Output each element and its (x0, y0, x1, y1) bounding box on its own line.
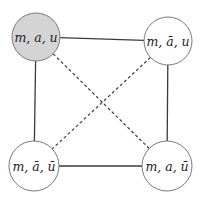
solid-edge-n2-n4 (167, 65, 168, 141)
graph-node-n3: m, ā, ū (9, 141, 59, 191)
graph-node-n1: m, a, u (12, 13, 60, 61)
dashed-edge-n1-n4 (53, 54, 149, 149)
graph-node-n4: m, a, ū (142, 141, 192, 191)
node-label: m, ā, ū (12, 159, 55, 174)
graph-node-n2: m, ā, u (144, 17, 192, 65)
graph-diagram: m, a, um, ā, um, ā, ūm, a, ū (0, 0, 203, 198)
solid-edge-n1-n3 (34, 61, 35, 141)
node-label: m, ā, u (146, 34, 189, 49)
solid-edge-n1-n2 (60, 38, 144, 41)
node-label: m, a, ū (145, 159, 188, 174)
nodes-group: m, a, um, ā, um, ā, ūm, a, ū (9, 13, 192, 191)
diagram-svg: m, a, um, ā, um, ā, ūm, a, ū (0, 0, 203, 198)
node-label: m, a, u (14, 30, 57, 45)
edges-group (34, 38, 167, 166)
